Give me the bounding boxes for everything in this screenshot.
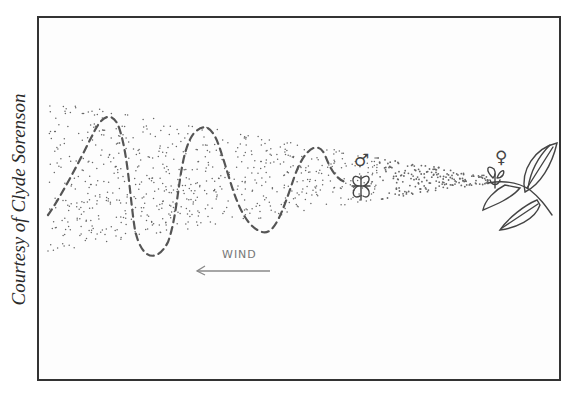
wind-label: WIND: [222, 248, 257, 261]
male-flight-path: [48, 117, 345, 256]
pheromone-plume-illustration: WIND ♂ ♀: [0, 0, 574, 404]
pheromone-plume-dots: [47, 105, 489, 252]
male-symbol: ♂: [354, 150, 369, 170]
wind-arrow-icon: [197, 266, 270, 275]
female-moth-icon: [488, 167, 504, 188]
female-symbol: ♀: [495, 147, 507, 167]
male-moth-icon: [352, 176, 370, 200]
